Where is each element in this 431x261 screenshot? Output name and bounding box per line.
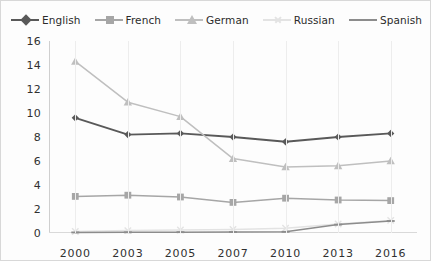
x-axis-tick-label: 2016: [375, 247, 406, 260]
x-axis-tick-label: 2010: [270, 247, 301, 260]
legend-marker-dash-icon: [360, 19, 368, 21]
vertical-gridline: [75, 41, 76, 233]
legend-swatch-square-icon: [95, 14, 123, 26]
x-axis-tick-label: 2000: [60, 247, 91, 260]
y-axis-tick-label: 6: [34, 155, 41, 168]
legend-item-german[interactable]: German: [175, 14, 249, 26]
plot-area-wrapper: 1614121086420 20002003200520072010201320…: [1, 31, 431, 261]
vertical-gridline: [286, 41, 287, 233]
y-axis-tick-label: 10: [26, 107, 41, 120]
plot-area: [49, 41, 417, 233]
legend-swatch-triangle-icon: [175, 14, 203, 26]
y-axis-tick-label: 16: [26, 35, 41, 48]
y-axis-tick-label: 2: [34, 203, 41, 216]
y-axis-tick-label: 4: [34, 179, 41, 192]
vertical-gridline: [233, 41, 234, 233]
legend-item-label: Russian: [294, 14, 335, 26]
y-axis-tick-label: 14: [26, 59, 41, 72]
legend-swatch-diamond-icon: [11, 14, 39, 26]
vertical-gridline: [391, 41, 392, 233]
x-axis-labels: 2000200320052007201020132016: [1, 236, 431, 261]
legend-item-label: Spanish: [380, 14, 422, 26]
chart-legend: EnglishFrenchGermanRussianSpanish: [1, 7, 431, 33]
y-axis-tick-label: 12: [26, 83, 41, 96]
legend-item-french[interactable]: French: [95, 14, 162, 26]
legend-swatch-dash-icon: [349, 14, 377, 26]
legend-item-spanish[interactable]: Spanish: [349, 14, 422, 26]
vertical-gridline: [338, 41, 339, 233]
x-axis-tick-label: 2005: [165, 247, 196, 260]
legend-marker-square-icon: [106, 16, 114, 24]
line-chart: EnglishFrenchGermanRussianSpanish 161412…: [0, 0, 431, 261]
x-axis-tick-label: 2003: [112, 247, 143, 260]
legend-item-label: French: [126, 14, 162, 26]
y-axis-tick-label: 8: [34, 131, 41, 144]
legend-item-russian[interactable]: Russian: [263, 14, 335, 26]
legend-marker-diamond-icon: [20, 14, 31, 25]
legend-item-english[interactable]: English: [11, 14, 81, 26]
legend-marker-triangle-icon: [187, 15, 197, 24]
legend-item-label: German: [206, 14, 249, 26]
vertical-gridline: [128, 41, 129, 233]
y-axis-labels: 1614121086420: [1, 31, 47, 261]
legend-marker-x-icon: [274, 16, 282, 24]
vertical-gridline: [180, 41, 181, 233]
legend-item-label: English: [42, 14, 81, 26]
x-axis-tick-label: 2013: [323, 247, 354, 260]
x-axis-tick-label: 2007: [217, 247, 248, 260]
legend-swatch-x-icon: [263, 14, 291, 26]
